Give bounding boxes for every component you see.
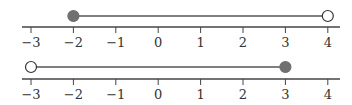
tick-label: 4 — [324, 87, 332, 102]
tick-label: −3 — [21, 35, 40, 50]
closed-endpoint-dot — [280, 62, 291, 73]
number-lines-diagram: −3−2−101234−3−2−101234 — [0, 0, 352, 105]
open-endpoint-circle — [322, 11, 333, 22]
tick-label: 3 — [281, 35, 289, 50]
tick-label: 3 — [281, 87, 289, 102]
tick-label: 2 — [239, 35, 247, 50]
closed-endpoint-dot — [68, 11, 79, 22]
tick-label: 4 — [324, 35, 332, 50]
tick-label: −1 — [106, 87, 125, 102]
tick-label: 1 — [196, 35, 204, 50]
tick-label: 1 — [196, 87, 204, 102]
tick-label: −1 — [106, 35, 125, 50]
tick-label: −3 — [21, 87, 40, 102]
tick-label: 0 — [154, 87, 162, 102]
tick-label: −2 — [64, 87, 83, 102]
tick-label: −2 — [64, 35, 83, 50]
open-endpoint-circle — [26, 62, 37, 73]
tick-label: 2 — [239, 87, 247, 102]
tick-label: 0 — [154, 35, 162, 50]
